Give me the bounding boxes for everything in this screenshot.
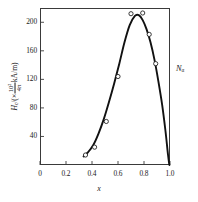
right-axis-subscript: α: [182, 67, 185, 73]
x-tick-label: 0.4: [82, 170, 102, 177]
data-point-marker: [116, 74, 120, 78]
data-point-marker: [147, 32, 151, 36]
y-tick-label: 120: [20, 75, 37, 82]
data-point-marker: [129, 12, 133, 16]
fit-curve: [84, 15, 170, 165]
data-point-marker: [83, 153, 87, 157]
x-axis-title: x: [0, 184, 198, 193]
data-markers: [83, 11, 157, 157]
x-tick-label: 0: [30, 170, 50, 177]
figure-container: 4080120160200 00.20.40.60.81.0 Hc/(×10²4…: [0, 0, 198, 202]
y-tick-label: 160: [20, 47, 37, 54]
x-tick-label: 1.0: [160, 170, 180, 177]
data-point-marker: [154, 62, 158, 66]
data-point-marker: [104, 119, 108, 123]
y-axis-title: Hc/(×10²4πkA/m): [8, 28, 23, 144]
x-axis-ticks: [40, 161, 170, 165]
x-axis-title-text: x: [97, 184, 101, 193]
y-axis-unit: kA/m): [10, 62, 19, 82]
y-axis-symbol: H: [10, 105, 19, 110]
x-tick-label: 0.8: [134, 170, 154, 177]
y-tick-label: 80: [20, 104, 37, 111]
x-tick-label: 0.2: [56, 170, 76, 177]
y-tick-label: 40: [20, 132, 37, 139]
x-tick-label: 0.6: [108, 170, 128, 177]
y-axis-fraction: 10²4π: [7, 83, 22, 94]
y-axis-symbol-subscript: c: [13, 103, 19, 105]
right-axis-label: Nα: [176, 64, 184, 73]
y-tick-label: 200: [20, 18, 37, 25]
y-axis-prefix: /(×: [10, 94, 19, 103]
data-point-marker: [141, 11, 145, 15]
y-axis-fraction-denominator: 4π: [15, 83, 22, 94]
data-point-marker: [93, 145, 97, 149]
y-axis-ticks: [40, 22, 44, 136]
